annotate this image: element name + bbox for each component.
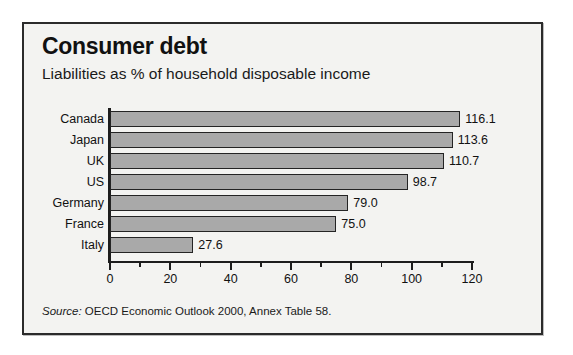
category-label: US bbox=[24, 175, 104, 189]
bar-chart-plot: 020406080100120 116.1113.6110.798.779.07… bbox=[24, 24, 545, 337]
tick-minor bbox=[200, 263, 202, 267]
bar bbox=[110, 132, 453, 148]
bar bbox=[110, 174, 408, 190]
tick-major bbox=[169, 263, 171, 270]
x-tick-label: 40 bbox=[211, 272, 251, 286]
x-tick-label: 0 bbox=[90, 272, 130, 286]
bar bbox=[110, 237, 193, 253]
x-tick-label: 80 bbox=[331, 272, 371, 286]
source-text: OECD Economic Outlook 2000, Annex Table … bbox=[82, 305, 332, 317]
category-label: France bbox=[24, 217, 104, 231]
category-label-wrap: Italy bbox=[24, 238, 108, 252]
category-label: UK bbox=[24, 154, 104, 168]
bar bbox=[110, 195, 348, 211]
tick-minor bbox=[260, 263, 262, 267]
bar-value-label: 27.6 bbox=[198, 238, 222, 252]
x-tick-label: 120 bbox=[452, 272, 492, 286]
bar bbox=[110, 153, 444, 169]
bar-value-label: 110.7 bbox=[449, 154, 479, 168]
tick-minor bbox=[441, 263, 443, 267]
tick-minor bbox=[320, 263, 322, 267]
source-label: Source: bbox=[42, 305, 82, 317]
tick-minor bbox=[139, 263, 141, 267]
category-label-wrap: Japan bbox=[24, 133, 108, 147]
tick-major bbox=[411, 263, 413, 270]
category-label: Canada bbox=[24, 112, 104, 126]
x-tick-label: 100 bbox=[392, 272, 432, 286]
bar-value-label: 113.6 bbox=[458, 133, 488, 147]
category-label: Germany bbox=[24, 196, 104, 210]
tick-minor bbox=[381, 263, 383, 267]
tick-major bbox=[471, 263, 473, 270]
category-label: Japan bbox=[24, 133, 104, 147]
chart-panel: Consumer debt Liabilities as % of househ… bbox=[22, 22, 543, 335]
tick-major bbox=[230, 263, 232, 270]
x-tick-label: 60 bbox=[271, 272, 311, 286]
category-label: Italy bbox=[24, 238, 104, 252]
bar-value-label: 116.1 bbox=[465, 112, 495, 126]
bar-value-label: 79.0 bbox=[353, 196, 377, 210]
category-label-wrap: France bbox=[24, 217, 108, 231]
category-label-wrap: US bbox=[24, 175, 108, 189]
bar bbox=[110, 111, 460, 127]
tick-major bbox=[290, 263, 292, 270]
category-label-wrap: Germany bbox=[24, 196, 108, 210]
bar-value-label: 98.7 bbox=[413, 175, 437, 189]
tick-major bbox=[109, 263, 111, 270]
tick-major bbox=[350, 263, 352, 270]
source-note: Source: OECD Economic Outlook 2000, Anne… bbox=[42, 305, 331, 317]
category-label-wrap: Canada bbox=[24, 112, 108, 126]
x-tick-label: 20 bbox=[150, 272, 190, 286]
category-label-wrap: UK bbox=[24, 154, 108, 168]
bar bbox=[110, 216, 336, 232]
bar-value-label: 75.0 bbox=[341, 217, 365, 231]
